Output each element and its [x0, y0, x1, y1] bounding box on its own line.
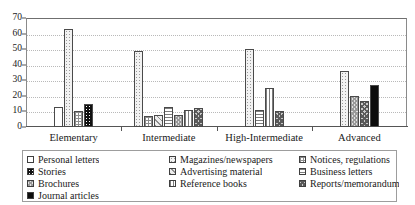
y-axis-tick-label: 10 [13, 107, 23, 117]
x-axis-category-label: Advanced [312, 129, 407, 147]
legend-item: Business letters [299, 165, 399, 177]
legend-item: Notices, regulations [299, 153, 399, 165]
bar [265, 88, 274, 127]
legend-item: Reports/memorandums [299, 177, 399, 189]
y-axis-tick-label: 60 [13, 29, 23, 39]
chart-legend: Personal lettersMagazines/newspapersNoti… [22, 150, 397, 202]
legend-swatch-icon [27, 168, 34, 175]
legend-item: Journal articles [27, 189, 167, 201]
y-axis-tick-label: 30 [13, 76, 23, 86]
legend-swatch-icon [27, 192, 34, 199]
y-axis-tick-label: 40 [13, 60, 23, 70]
legend-item-label: Brochures [38, 178, 79, 189]
bar [255, 110, 264, 127]
legend-item-label: Business letters [310, 166, 373, 177]
legend-spacer [299, 189, 399, 201]
bar [144, 116, 153, 127]
legend-swatch-icon [27, 156, 34, 163]
bar [134, 51, 143, 127]
legend-item: Brochures [27, 177, 167, 189]
legend-item: Stories [27, 165, 167, 177]
legend-item: Advertising material [169, 165, 297, 177]
y-axis-tick-label: 20 [13, 91, 23, 101]
y-axis-tick-label: 50 [13, 44, 23, 54]
bar [370, 85, 379, 127]
bar [64, 29, 73, 127]
bar-group [121, 18, 216, 127]
legend-swatch-icon [169, 168, 176, 175]
legend-item-label: Reports/memorandums [310, 178, 399, 189]
legend-item-label: Reference books [180, 178, 247, 189]
legend-swatch-icon [299, 168, 306, 175]
bar [174, 115, 183, 127]
legend-item-label: Magazines/newspapers [180, 154, 273, 165]
bar [74, 111, 83, 127]
legend-swatch-icon [169, 156, 176, 163]
bar [184, 110, 193, 127]
legend-item: Personal letters [27, 153, 167, 165]
bar [54, 107, 63, 127]
bar [340, 71, 349, 127]
bar [360, 101, 369, 127]
legend-swatch-icon [27, 180, 34, 187]
bar [84, 104, 93, 127]
bar-chart-figure: 010203040506070 ElementaryIntermediateHi… [0, 0, 415, 205]
bar [164, 107, 173, 127]
bar [194, 108, 203, 127]
legend-item: Reference books [169, 177, 297, 189]
y-axis-tick-label: 70 [13, 13, 23, 23]
bar-group [312, 18, 407, 127]
bar [154, 115, 163, 127]
legend-swatch-icon [299, 180, 306, 187]
legend-spacer [169, 189, 297, 201]
x-axis-category-label: Elementary [26, 129, 121, 147]
legend-item-label: Personal letters [38, 154, 99, 165]
x-axis-category-label: Intermediate [121, 129, 216, 147]
bar [350, 96, 359, 127]
bar-group [217, 18, 312, 127]
plot-area-wrapper: 010203040506070 ElementaryIntermediateHi… [0, 0, 415, 148]
x-axis-labels: ElementaryIntermediateHigh-IntermediateA… [26, 129, 407, 147]
legend-item-label: Stories [38, 166, 66, 177]
y-axis: 010203040506070 [0, 0, 26, 148]
legend-item: Magazines/newspapers [169, 153, 297, 165]
bar-group [26, 18, 121, 127]
legend-item-label: Advertising material [180, 166, 262, 177]
bar-groups [26, 18, 407, 127]
legend-item-label: Journal articles [38, 190, 99, 201]
x-axis-category-label: High-Intermediate [217, 129, 312, 147]
legend-swatch-icon [299, 156, 306, 163]
bar [275, 111, 284, 127]
bar [245, 49, 254, 127]
legend-item-label: Notices, regulations [310, 154, 390, 165]
legend-swatch-icon [169, 180, 176, 187]
